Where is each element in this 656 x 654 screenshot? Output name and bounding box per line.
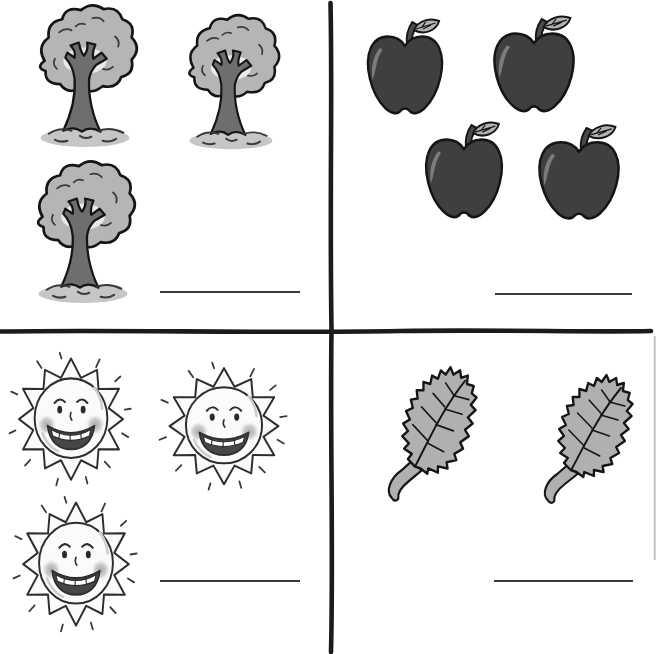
quadrant-leaves	[329, 331, 656, 654]
worksheet-page	[0, 0, 656, 654]
apple-illustration-3	[418, 119, 510, 232]
apple-illustration-2	[486, 13, 582, 126]
sun-illustration-2	[156, 360, 292, 496]
answer-line-leaves[interactable]	[494, 580, 633, 582]
leaf-illustration-1	[378, 360, 494, 506]
tree-illustration-2	[178, 12, 284, 156]
leaf-illustration-2	[534, 368, 650, 508]
sun-illustration-3	[10, 494, 142, 638]
answer-line-trees[interactable]	[160, 291, 300, 293]
tree-illustration-3	[26, 158, 140, 310]
quadrant-trees	[0, 0, 329, 331]
apple-illustration-4	[531, 122, 627, 233]
sun-illustration-1	[6, 350, 136, 492]
apple-illustration-1	[360, 16, 450, 128]
quadrant-suns	[0, 331, 329, 654]
answer-line-suns[interactable]	[160, 580, 300, 582]
tree-illustration-1	[28, 2, 142, 154]
quadrant-apples	[329, 0, 656, 331]
answer-line-apples[interactable]	[495, 293, 632, 295]
